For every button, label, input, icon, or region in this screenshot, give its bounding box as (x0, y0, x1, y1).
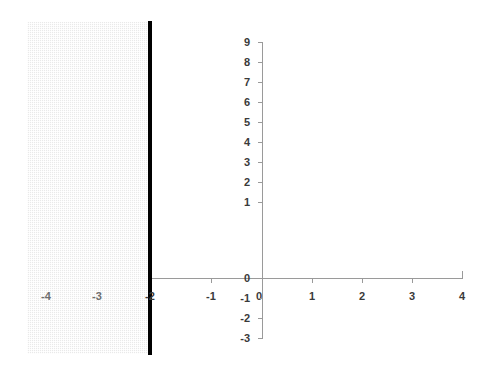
y-tick-5 (258, 122, 262, 123)
y-tick--2 (258, 318, 262, 319)
y-tick-8 (258, 62, 262, 63)
x-tick-label--1: -1 (206, 291, 216, 302)
x-tick-label--4: -4 (41, 291, 51, 302)
x-tick-1 (312, 279, 313, 283)
y-tick-label-4: 4 (244, 137, 250, 148)
y-tick-label-6: 6 (244, 97, 250, 108)
x-axis (152, 278, 463, 279)
y-tick-label-7: 7 (244, 77, 250, 88)
y-tick-1 (258, 202, 262, 203)
boundary-line-x-equals-negative-2 (148, 21, 152, 355)
x-tick-0 (262, 279, 263, 283)
x-tick-label-3: 3 (409, 291, 415, 302)
y-tick-9 (258, 42, 262, 43)
x-tick-label-1: 1 (309, 291, 315, 302)
y-tick-label-2: 2 (244, 177, 250, 188)
y-tick-3 (258, 162, 262, 163)
x-tick-label-2: 2 (359, 291, 365, 302)
y-tick-6 (258, 102, 262, 103)
y-axis (262, 42, 263, 339)
y-tick-0 (258, 278, 262, 279)
x-tick-4 (462, 271, 463, 279)
y-tick--1 (258, 298, 262, 299)
y-tick-2 (258, 182, 262, 183)
x-tick-label--2: -2 (145, 291, 155, 302)
x-tick--1 (211, 279, 212, 283)
y-tick-label-9: 9 (244, 37, 250, 48)
shaded-solution-region (27, 22, 152, 354)
y-tick-7 (258, 82, 262, 83)
x-tick-label-4: 4 (459, 291, 465, 302)
x-tick-3 (412, 279, 413, 283)
y-tick-label-0: 0 (244, 273, 250, 284)
x-tick-2 (362, 279, 363, 283)
x-tick-label-0: 0 (256, 291, 262, 302)
y-tick-label-1: 1 (244, 197, 250, 208)
y-tick-label-5: 5 (244, 117, 250, 128)
y-tick-label--3: -3 (240, 333, 250, 344)
x-tick-label--3: -3 (92, 291, 102, 302)
graph-canvas: -4 -3 -2 -1 0 1 2 3 4 9 8 7 6 5 4 3 2 1 … (0, 0, 492, 387)
y-tick-label--2: -2 (240, 313, 250, 324)
y-tick-label-8: 8 (244, 57, 250, 68)
y-tick-label-3: 3 (244, 157, 250, 168)
y-tick-label--1: -1 (240, 293, 250, 304)
y-tick--3 (258, 338, 262, 339)
y-tick-4 (258, 142, 262, 143)
